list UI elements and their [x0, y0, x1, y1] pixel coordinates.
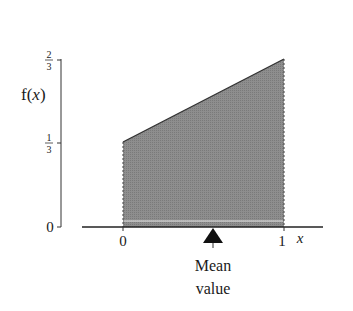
- y-tick-label-third-den: 3: [47, 144, 52, 155]
- y-axis-label: f(x): [21, 85, 46, 104]
- x-axis-label: x: [296, 230, 304, 246]
- y-tick-label-0: 0: [46, 219, 54, 235]
- density-area: [123, 59, 284, 227]
- mean-label-line1: Mean: [195, 257, 231, 274]
- chart: 0 1 3 2 3 f(x) 0 1 x Mean value: [0, 0, 353, 311]
- x-tick-label-0: 0: [119, 233, 127, 249]
- mean-label-line2: value: [196, 280, 231, 297]
- x-tick-label-1: 1: [278, 233, 286, 249]
- y-tick-label-twothirds-num: 2: [47, 49, 52, 60]
- mean-marker-icon: [203, 228, 223, 243]
- y-tick-label-twothirds-den: 3: [47, 61, 52, 72]
- y-tick-label-third-num: 1: [47, 132, 52, 143]
